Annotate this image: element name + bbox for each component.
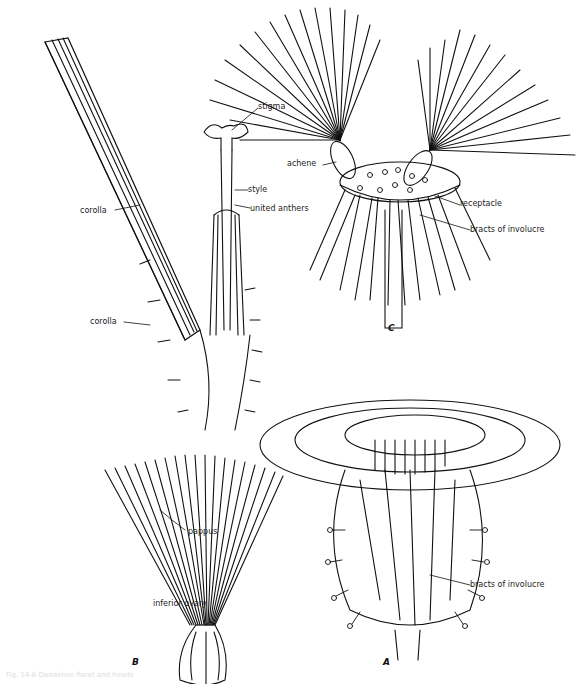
figure-caption: Fig. 14-6 Dandelion floret and heads	[6, 671, 133, 679]
flower-head-a-drawing	[260, 400, 560, 660]
label-receptacle: receptacle	[460, 200, 502, 208]
label-inferior-ovary: inferior ovary	[153, 600, 207, 608]
label-bracts-of-involucre-a: bracts of involucre	[470, 581, 544, 589]
label-corolla-upper: corolla	[80, 207, 107, 215]
label-stigma: stigma	[258, 103, 285, 111]
panel-label-a: A	[383, 657, 390, 667]
label-bracts-of-involucre-c: bracts of involucre	[470, 226, 544, 234]
label-united-anthers: united anthers	[250, 205, 309, 213]
label-corolla-lower: corolla	[90, 318, 117, 326]
label-pappus: pappus	[188, 528, 217, 536]
label-achene: achene	[287, 160, 316, 168]
leader-lines	[115, 108, 470, 625]
panel-label-c: C	[388, 323, 395, 333]
floret-b-drawing	[45, 38, 283, 684]
label-style: style	[248, 186, 267, 194]
panel-label-b: B	[132, 657, 139, 667]
fruiting-head-c-drawing	[210, 8, 575, 328]
